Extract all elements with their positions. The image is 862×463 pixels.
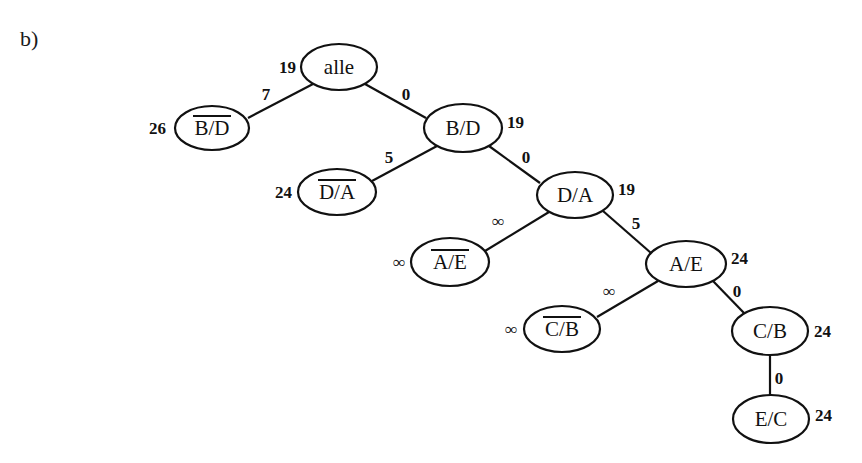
node-cost-label: 19 [618,180,635,199]
node-cost-label: 24 [815,406,833,425]
tree-node-alle: alle19 [279,44,377,90]
node-label: D/A [557,183,594,207]
tree-node-DA: D/A19 [537,172,635,218]
tree-edge: 5 [372,146,437,181]
node-label: C/B [545,317,579,341]
edge-line [603,211,651,253]
edge-weight-label: 7 [262,85,271,104]
tree-node-nBD: B/D26 [149,106,249,150]
tree-edge: 0 [365,84,426,118]
edge-weight-label: 0 [522,148,531,167]
node-label: B/D [445,116,480,140]
node-cost-label: 24 [814,322,832,341]
edge-weight-label: 0 [775,369,784,388]
node-label: alle [324,55,354,79]
node-cost-label: 24 [731,249,749,268]
node-label: B/D [194,116,229,140]
node-label: A/E [433,250,467,274]
tree-node-CB: C/B24 [732,307,832,355]
edge-weight-label: ∞ [492,212,504,231]
tree-edge: 0 [713,281,744,313]
tree-edge: 0 [770,355,783,395]
edge-weight-label: 5 [632,214,641,233]
tree-node-BD: B/D19 [424,104,524,152]
search-tree-diagram: 7050∞5∞00 alle19B/D26B/D19D/A24D/A19A/E∞… [0,0,862,463]
tree-edge: 0 [489,146,540,183]
tree-edge: 5 [603,211,651,253]
node-cost-label: 19 [279,58,296,77]
node-cost-label: ∞ [505,320,517,339]
node-cost-label: 26 [149,119,166,138]
node-cost-label: 19 [507,113,524,132]
tree-node-AE: A/E24 [646,241,749,287]
node-cost-label: 24 [275,183,293,202]
tree-edge: 7 [248,84,313,118]
edge-weight-label: 0 [402,85,411,104]
node-label: A/E [669,252,703,276]
edge-weight-label: ∞ [603,282,615,301]
node-label: E/C [755,407,788,431]
tree-node-EC: E/C24 [733,395,833,443]
edge-line [248,84,313,118]
edge-weight-label: 0 [733,282,742,301]
edge-line [489,146,540,183]
tree-edge: ∞ [485,212,549,251]
tree-node-nCB: C/B∞ [505,306,600,352]
edge-weight-label: 5 [385,148,394,167]
tree-edge: ∞ [597,281,658,317]
node-label: D/A [319,180,356,204]
node-label: C/B [753,319,787,343]
node-cost-label: ∞ [393,253,405,272]
tree-node-nAE: A/E∞ [393,238,489,286]
edge-line [372,146,437,181]
edge-line [365,84,426,118]
tree-nodes: alle19B/D26B/D19D/A24D/A19A/E∞A/E24C/B∞C… [149,44,833,443]
tree-node-nDA: D/A24 [275,169,376,215]
